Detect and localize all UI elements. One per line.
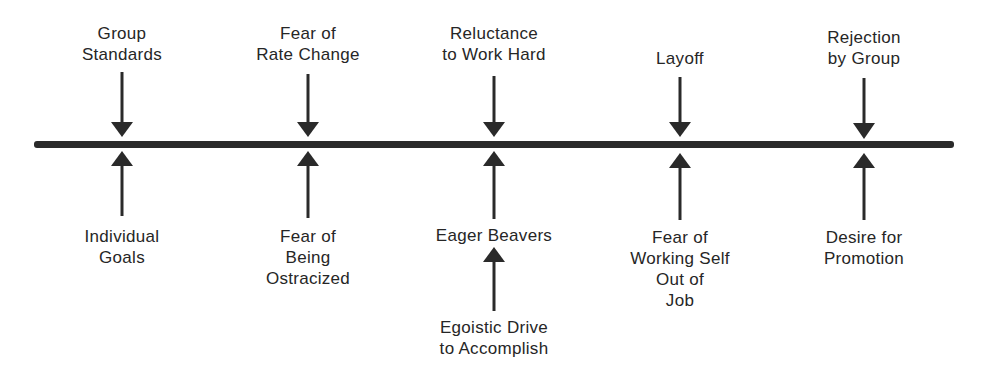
- bottom-force-label-desire-for-promotion: Desire for Promotion: [824, 227, 904, 269]
- bottom-force-label-fear-of-being-ostracized: Fear of Being Ostracized: [266, 226, 350, 289]
- arrow-up-icon: [669, 153, 691, 220]
- bottom-force-label-eager-beavers: Eager Beavers: [436, 225, 552, 246]
- bottom-force-label-egoistic-drive: Egoistic Drive to Accomplish: [440, 317, 549, 359]
- arrow-up-icon: [483, 151, 505, 219]
- arrow-up-icon: [297, 151, 319, 218]
- bottom-force-label-fear-of-working-self-out-of-job: Fear of Working Self Out of Job: [630, 227, 730, 311]
- bottom-force-label-individual-goals: Individual Goals: [85, 226, 160, 268]
- arrow-down-icon: [111, 72, 133, 137]
- arrow-down-icon: [483, 76, 505, 137]
- arrow-up-icon: [483, 247, 505, 311]
- arrow-up-icon: [111, 151, 133, 216]
- arrow-down-icon: [669, 77, 691, 137]
- arrow-down-icon: [853, 78, 875, 139]
- arrow-up-icon: [853, 153, 875, 220]
- arrow-down-icon: [297, 74, 319, 137]
